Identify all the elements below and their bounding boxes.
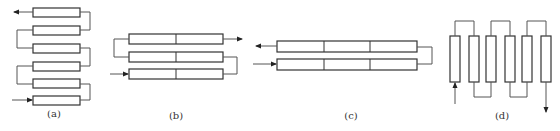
subfigure-c — [253, 41, 432, 70]
connector-d — [527, 21, 546, 36]
connector-a — [80, 84, 90, 100]
subfigure-b — [110, 34, 242, 79]
connector-c — [417, 47, 432, 64]
caption-c: (c) — [344, 110, 357, 121]
tube-d3 — [486, 36, 496, 82]
connector-d — [474, 82, 491, 97]
tube-a4 — [33, 62, 80, 71]
connector-b — [223, 57, 237, 74]
caption-a: (a) — [47, 108, 61, 119]
connector-a — [17, 66, 33, 84]
tube-d4 — [505, 36, 515, 82]
subfigure-d — [450, 21, 551, 112]
diagram-canvas — [0, 0, 560, 131]
connector-b — [114, 39, 129, 57]
tube-d1 — [450, 36, 460, 82]
caption-b: (b) — [169, 110, 183, 121]
tube-a3 — [33, 44, 80, 53]
connector-a — [80, 48, 90, 66]
tube-a1 — [33, 8, 80, 17]
tube-d5 — [522, 36, 532, 82]
connector-d — [510, 82, 527, 97]
caption-d: (d) — [495, 110, 509, 121]
tube-a5 — [33, 79, 80, 88]
connector-d — [455, 21, 474, 36]
tube-c1 — [277, 41, 417, 52]
tube-c2 — [277, 59, 417, 70]
tube-a6 — [33, 96, 80, 105]
tube-d6 — [541, 36, 551, 82]
subfigure-a — [12, 8, 90, 105]
connector-d — [491, 21, 510, 36]
tube-d2 — [469, 36, 479, 82]
tube-a2 — [33, 26, 80, 35]
connector-a — [17, 30, 33, 48]
connector-a — [80, 12, 90, 30]
